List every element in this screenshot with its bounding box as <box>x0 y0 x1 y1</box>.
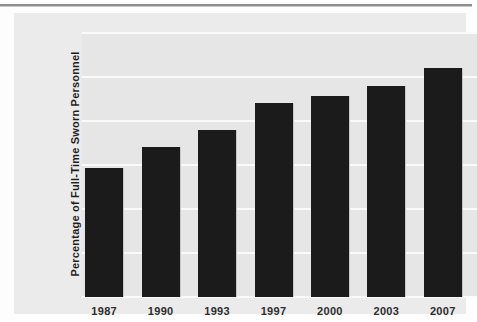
x-tick-label: 2007 <box>430 305 456 317</box>
bar <box>424 68 462 297</box>
top-rule-divider-secondary <box>0 6 472 7</box>
x-tick-label: 1990 <box>148 305 174 317</box>
chart-panel: Percentage of Full-Time Sworn Personnel … <box>14 13 466 314</box>
gridline <box>82 32 477 34</box>
x-tick-label: 1993 <box>204 305 230 317</box>
bar <box>311 96 349 297</box>
bar <box>85 168 123 297</box>
bar <box>198 130 236 297</box>
x-tick-label: 2003 <box>374 305 400 317</box>
y-axis-title: Percentage of Full-Time Sworn Personnel <box>69 51 81 276</box>
bar <box>255 103 293 297</box>
gridline <box>82 76 477 78</box>
bar <box>367 86 405 297</box>
plot-area <box>82 33 477 297</box>
x-tick-label: 1997 <box>261 305 287 317</box>
x-tick-label: 2000 <box>317 305 343 317</box>
x-tick-label: 1987 <box>91 305 117 317</box>
bar <box>142 147 180 297</box>
